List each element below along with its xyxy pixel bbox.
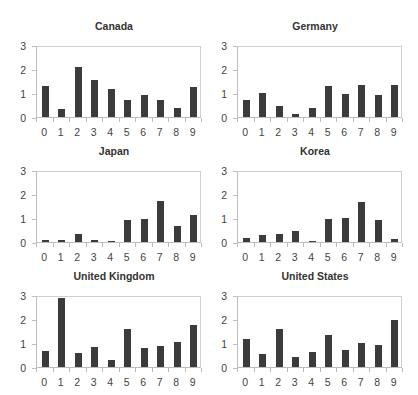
- x-tick-mark: [254, 368, 255, 372]
- x-tick-mark: [336, 243, 337, 247]
- x-tick-mark: [135, 118, 136, 122]
- x-tick-mark: [402, 118, 403, 122]
- bar: [276, 234, 283, 242]
- bar: [108, 89, 115, 117]
- x-tick-label: 4: [305, 376, 317, 388]
- x-tick-label: 5: [121, 376, 133, 388]
- x-tick-mark: [336, 368, 337, 372]
- y-tick-label: 0: [215, 363, 227, 373]
- x-tick-mark: [152, 118, 153, 122]
- bar: [342, 218, 349, 242]
- bar: [259, 235, 266, 242]
- x-tick-mark: [119, 368, 120, 372]
- x-tick-mark: [270, 243, 271, 247]
- y-tick-label: 3: [215, 166, 227, 176]
- y-tick-mark: [233, 344, 237, 345]
- y-tick-mark: [32, 296, 36, 297]
- x-tick-mark: [287, 243, 288, 247]
- bar: [309, 241, 316, 242]
- y-tick-label: 0: [14, 113, 26, 123]
- x-tick-mark: [168, 118, 169, 122]
- x-tick-mark: [320, 118, 321, 122]
- chart-title: Germany: [229, 20, 401, 32]
- bar: [174, 108, 181, 117]
- bar: [157, 346, 164, 367]
- x-tick-mark: [53, 243, 54, 247]
- x-tick-mark: [336, 118, 337, 122]
- x-tick-mark: [36, 243, 37, 247]
- bar: [108, 360, 115, 367]
- bar: [141, 219, 148, 242]
- x-tick-mark: [237, 368, 238, 372]
- x-tick-mark: [185, 368, 186, 372]
- chart-title: United States: [229, 270, 401, 282]
- bar: [292, 231, 299, 242]
- chart-panel-japan: Japan01230123456789: [0, 133, 209, 258]
- bar: [58, 109, 65, 117]
- x-tick-mark: [102, 243, 103, 247]
- x-tick-label: 8: [371, 376, 383, 388]
- y-tick-label: 2: [14, 315, 26, 325]
- bar: [75, 353, 82, 367]
- x-tick-mark: [254, 118, 255, 122]
- y-tick-mark: [32, 344, 36, 345]
- bar: [190, 215, 197, 242]
- bar: [243, 339, 250, 367]
- bar: [391, 85, 398, 117]
- y-tick-mark: [233, 219, 237, 220]
- y-tick-mark: [233, 94, 237, 95]
- x-tick-mark: [119, 243, 120, 247]
- chart-title: Korea: [229, 145, 401, 157]
- bar: [42, 351, 49, 367]
- x-tick-label: 2: [272, 376, 284, 388]
- y-tick-mark: [233, 171, 237, 172]
- bar: [259, 93, 266, 117]
- bar: [91, 80, 98, 117]
- chart-panel-united-kingdom: United Kingdom01230123456789: [0, 258, 209, 383]
- x-tick-mark: [152, 368, 153, 372]
- x-tick-label: 1: [256, 376, 268, 388]
- bar: [292, 357, 299, 367]
- bar: [124, 329, 131, 367]
- bar: [325, 86, 332, 117]
- y-tick-label: 0: [14, 238, 26, 248]
- x-tick-mark: [287, 368, 288, 372]
- x-tick-mark: [135, 368, 136, 372]
- x-tick-mark: [69, 118, 70, 122]
- chart-title: Japan: [28, 145, 200, 157]
- chart-panel-korea: Korea01230123456789: [201, 133, 410, 258]
- bar: [42, 240, 49, 242]
- bar: [75, 67, 82, 117]
- x-tick-mark: [287, 118, 288, 122]
- bar: [58, 298, 65, 367]
- x-tick-mark: [86, 368, 87, 372]
- y-tick-label: 3: [215, 291, 227, 301]
- bar: [342, 350, 349, 367]
- x-tick-label: 3: [289, 376, 301, 388]
- x-tick-mark: [303, 118, 304, 122]
- bar: [243, 238, 250, 242]
- x-tick-mark: [369, 368, 370, 372]
- x-tick-mark: [102, 368, 103, 372]
- x-tick-mark: [402, 368, 403, 372]
- y-tick-label: 0: [215, 113, 227, 123]
- x-tick-mark: [69, 243, 70, 247]
- x-tick-label: 6: [137, 376, 149, 388]
- bar: [75, 234, 82, 242]
- y-tick-label: 2: [14, 65, 26, 75]
- plot-area: [237, 296, 402, 368]
- x-tick-mark: [86, 243, 87, 247]
- bar: [141, 348, 148, 367]
- bar: [375, 95, 382, 117]
- bar: [325, 335, 332, 367]
- y-tick-label: 2: [14, 190, 26, 200]
- bar: [375, 220, 382, 242]
- x-tick-mark: [36, 368, 37, 372]
- y-tick-label: 1: [14, 339, 26, 349]
- bar: [157, 100, 164, 117]
- y-tick-mark: [233, 195, 237, 196]
- chart-panel-canada: Canada01230123456789: [0, 8, 209, 133]
- y-tick-mark: [32, 70, 36, 71]
- y-tick-label: 1: [215, 89, 227, 99]
- x-tick-mark: [303, 368, 304, 372]
